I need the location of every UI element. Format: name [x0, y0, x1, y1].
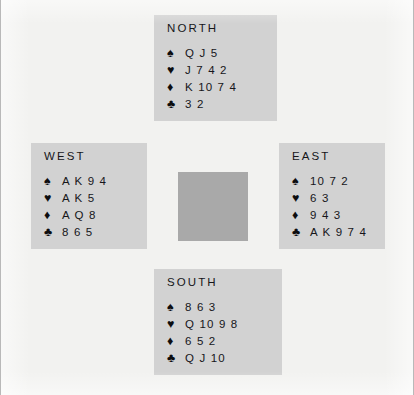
hand-south-hearts: Q 10 9 8: [182, 316, 238, 333]
diamond-icon: ♦: [167, 333, 182, 350]
spade-icon: ♠: [167, 299, 182, 316]
hand-north-clubs: 3 2: [182, 96, 204, 113]
hand-north-diamonds: K 10 7 4: [182, 79, 237, 96]
hand-east: EAST ♠ 10 7 2 ♥ 6 3 ♦ 9 4 3 ♣ A K 9 7 4: [279, 143, 385, 249]
hand-south-spades-row: ♠ 8 6 3: [167, 299, 282, 316]
hand-east-hearts-row: ♥ 6 3: [292, 190, 385, 207]
spade-icon: ♠: [167, 45, 182, 62]
hand-north-diamonds-row: ♦ K 10 7 4: [167, 79, 277, 96]
diamond-icon: ♦: [167, 79, 182, 96]
club-icon: ♣: [292, 224, 307, 241]
diamond-icon: ♦: [292, 207, 307, 224]
hand-east-spades: 10 7 2: [307, 173, 349, 190]
heart-icon: ♥: [167, 316, 182, 333]
center-square: [178, 172, 248, 241]
hand-west: WEST ♠ A K 9 4 ♥ A K 5 ♦ A Q 8 ♣ 8 6 5: [31, 143, 147, 249]
hand-south-diamonds: 6 5 2: [182, 333, 216, 350]
heart-icon: ♥: [44, 190, 59, 207]
hand-south-label: SOUTH: [167, 276, 282, 289]
hand-west-label: WEST: [44, 150, 147, 163]
hand-north-label: NORTH: [167, 22, 277, 35]
club-icon: ♣: [44, 224, 59, 241]
hand-south-clubs: Q J 10: [182, 350, 226, 367]
hand-north-clubs-row: ♣ 3 2: [167, 96, 277, 113]
club-icon: ♣: [167, 96, 182, 113]
hand-south-spades: 8 6 3: [182, 299, 216, 316]
hand-west-diamonds: A Q 8: [59, 207, 97, 224]
hand-west-clubs-row: ♣ 8 6 5: [44, 224, 147, 241]
hand-south-hearts-row: ♥ Q 10 9 8: [167, 316, 282, 333]
hand-north-hearts-row: ♥ J 7 4 2: [167, 62, 277, 79]
hand-east-label: EAST: [292, 150, 385, 163]
hand-west-hearts: A K 5: [59, 190, 95, 207]
heart-icon: ♥: [167, 62, 182, 79]
hand-south-clubs-row: ♣ Q J 10: [167, 350, 282, 367]
heart-icon: ♥: [292, 190, 307, 207]
hand-east-diamonds: 9 4 3: [307, 207, 341, 224]
bridge-deal-diagram: NORTH ♠ Q J 5 ♥ J 7 4 2 ♦ K 10 7 4 ♣ 3 2…: [0, 0, 414, 395]
spade-icon: ♠: [44, 173, 59, 190]
hand-north-spades-row: ♠ Q J 5: [167, 45, 277, 62]
hand-east-clubs: A K 9 7 4: [307, 224, 367, 241]
hand-south-diamonds-row: ♦ 6 5 2: [167, 333, 282, 350]
hand-west-hearts-row: ♥ A K 5: [44, 190, 147, 207]
hand-east-clubs-row: ♣ A K 9 7 4: [292, 224, 385, 241]
club-icon: ♣: [167, 350, 182, 367]
hand-east-hearts: 6 3: [307, 190, 329, 207]
hand-east-spades-row: ♠ 10 7 2: [292, 173, 385, 190]
diamond-icon: ♦: [44, 207, 59, 224]
hand-south: SOUTH ♠ 8 6 3 ♥ Q 10 9 8 ♦ 6 5 2 ♣ Q J 1…: [154, 269, 282, 375]
hand-west-diamonds-row: ♦ A Q 8: [44, 207, 147, 224]
spade-icon: ♠: [292, 173, 307, 190]
hand-east-diamonds-row: ♦ 9 4 3: [292, 207, 385, 224]
hand-west-clubs: 8 6 5: [59, 224, 93, 241]
hand-north: NORTH ♠ Q J 5 ♥ J 7 4 2 ♦ K 10 7 4 ♣ 3 2: [154, 15, 277, 121]
hand-north-hearts: J 7 4 2: [182, 62, 228, 79]
hand-west-spades-row: ♠ A K 9 4: [44, 173, 147, 190]
hand-north-spades: Q J 5: [182, 45, 218, 62]
hand-west-spades: A K 9 4: [59, 173, 107, 190]
